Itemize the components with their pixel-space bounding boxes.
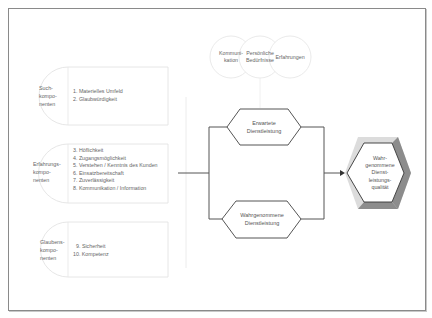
- category-line: Glaubens-: [40, 238, 64, 246]
- list-item: 7. Zuverlässigkeit: [73, 177, 158, 185]
- perceived-quality-label: Wahr- genommene Dienst- leistungs- quali…: [360, 155, 400, 191]
- list-item: 10. Kompetenz: [73, 251, 109, 259]
- component-category-experience: Erfahrungs- kompo- nenten: [33, 160, 61, 184]
- label-line: qualität: [360, 184, 400, 191]
- category-line: nenten: [39, 100, 57, 108]
- label-line: Dienst-: [360, 169, 400, 176]
- list-item: 3. Höflichkeit: [73, 147, 158, 155]
- connector-bracket-right: [301, 127, 324, 219]
- perceived-service-label: Wahrgenommene Dienstleistung: [228, 212, 296, 227]
- connector-bracket-left: [209, 127, 227, 219]
- list-item: 5. Verstehen / Kenntnis des Kunden: [73, 162, 158, 170]
- label-line: Erwartete: [232, 120, 296, 128]
- category-line: kompo-: [33, 168, 61, 176]
- category-line: Erfahrungs-: [33, 160, 61, 168]
- list-item: 8. Kommunikation / Information: [73, 185, 158, 193]
- label-line: Dienstleistung: [232, 128, 296, 136]
- label-line: Dienstleistung: [228, 220, 296, 228]
- list-item: 2. Glaubwürdigkeit: [73, 96, 123, 104]
- expected-service-label: Erwartete Dienstleistung: [232, 120, 296, 135]
- influence-label-experience: Erfahrungen: [270, 54, 310, 61]
- label-line: leistungs-: [360, 177, 400, 184]
- list-item: 1. Materielles Umfeld: [73, 88, 123, 96]
- component-items-search: 1. Materielles Umfeld 2. Glaubwürdigkeit: [73, 88, 123, 103]
- list-item: 9. Sicherheit: [73, 243, 109, 251]
- component-items-belief: 9. Sicherheit 10. Kompetenz: [73, 243, 109, 258]
- component-items-experience: 3. Höflichkeit 4. Zugangsmöglichkeit 5. …: [73, 147, 158, 193]
- arrow-head-icon: [340, 170, 345, 176]
- component-category-belief: Glaubens- kompo- nenten: [40, 238, 64, 262]
- label-line: Wahrgenommene: [228, 212, 296, 220]
- category-line: kompo-: [39, 92, 57, 100]
- category-line: kompo-: [40, 246, 64, 254]
- label-line: Erfahrungen: [270, 54, 310, 61]
- category-line: nenten: [33, 176, 61, 184]
- category-line: nenten: [40, 254, 64, 262]
- list-item: 4. Zugangsmöglichkeit: [73, 155, 158, 163]
- category-line: Such-: [39, 84, 57, 92]
- label-line: genommene: [360, 162, 400, 169]
- list-item: 6. Einsatzbereitschaft: [73, 170, 158, 178]
- label-line: Wahr-: [360, 155, 400, 162]
- component-category-search: Such- kompo- nenten: [39, 84, 57, 108]
